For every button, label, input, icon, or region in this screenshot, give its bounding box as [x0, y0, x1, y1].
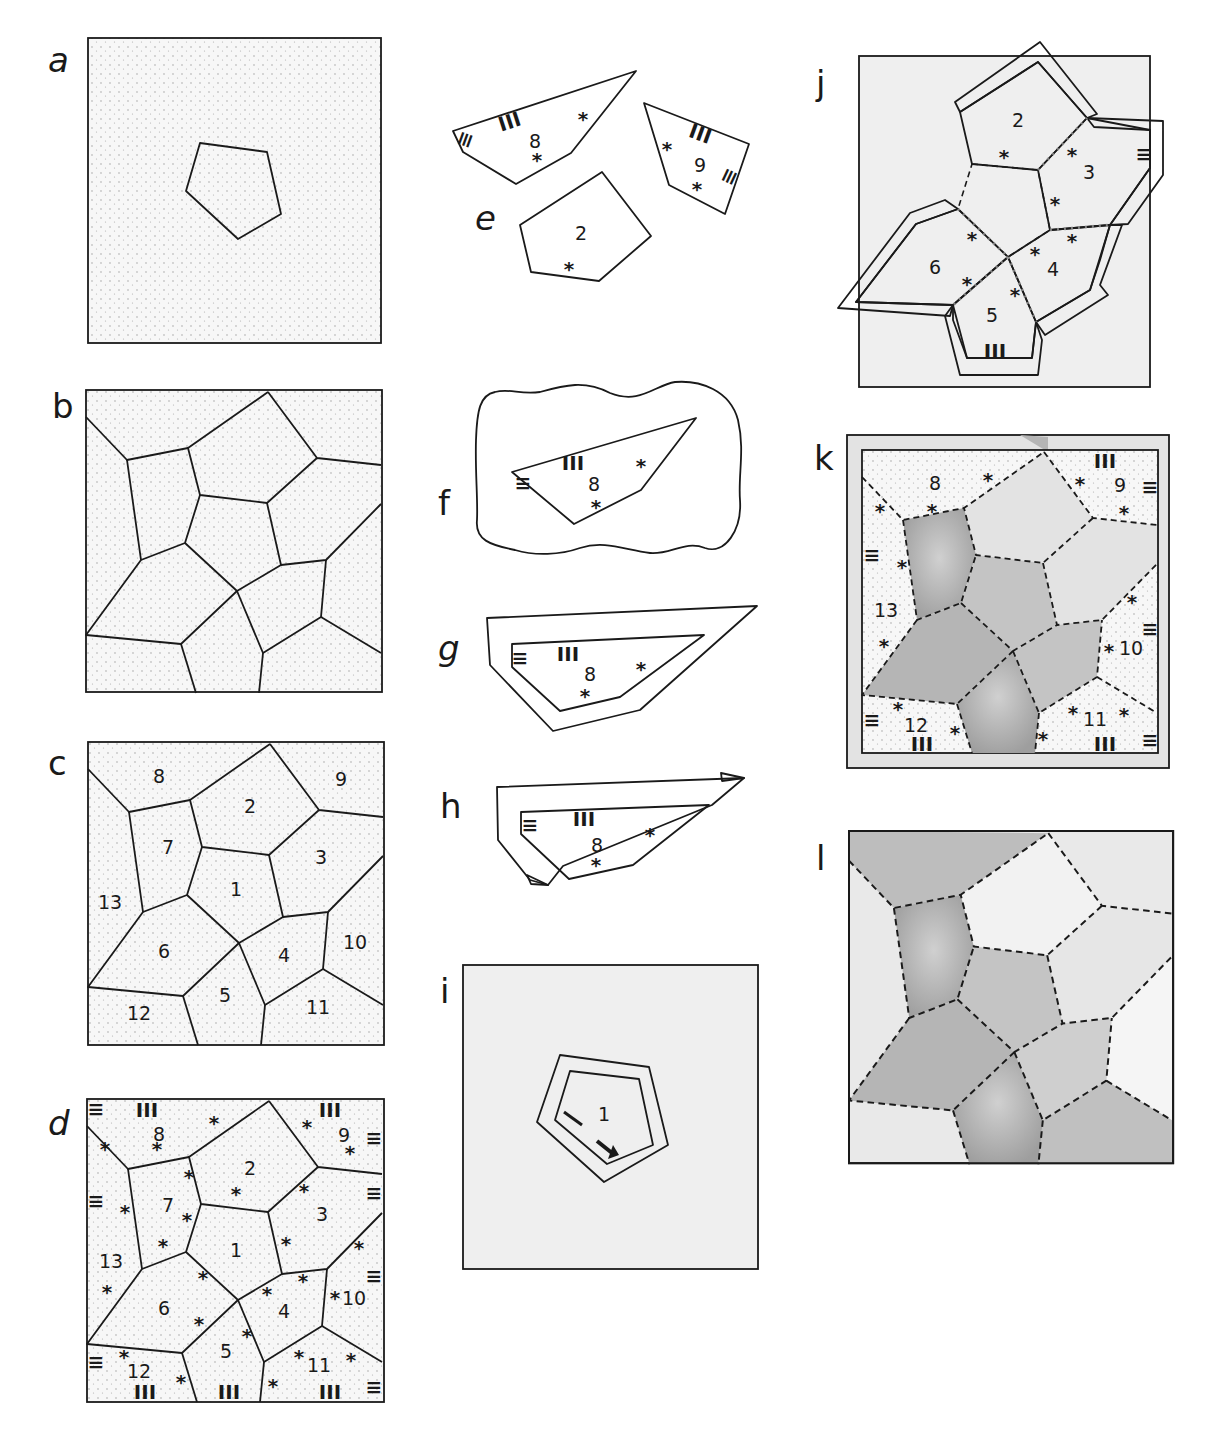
stripe-marker: ≡	[1136, 142, 1153, 166]
star-marker: *	[1010, 283, 1021, 307]
panel-label-c: c	[48, 743, 67, 783]
panel-i-frame	[463, 965, 758, 1269]
piece-number-5: 5	[219, 984, 231, 1006]
piece-number-12: 12	[127, 1002, 151, 1024]
star-marker: *	[198, 1266, 209, 1290]
star-marker: *	[1050, 192, 1061, 216]
piece-9-cutout: 9 * * III ≡	[644, 103, 749, 214]
star-marker: *	[346, 1348, 357, 1372]
star-marker: *	[345, 1141, 356, 1165]
piece-8	[521, 805, 709, 879]
panel-label-b: b	[52, 386, 74, 426]
piece-number-9: 9	[1114, 474, 1126, 496]
star-marker: *	[281, 1232, 292, 1256]
star-marker: *	[962, 272, 973, 296]
stripe-marker: III	[134, 1380, 156, 1404]
panel-b: b	[52, 386, 382, 693]
star-marker: *	[927, 499, 938, 523]
star-marker: *	[209, 1111, 220, 1135]
star-marker: *	[302, 1115, 313, 1139]
stripe-marker: ≡	[1142, 475, 1159, 499]
stripe-marker: ≡	[88, 1097, 105, 1121]
star-marker: *	[330, 1286, 341, 1310]
piece-number-11: 11	[307, 1354, 331, 1376]
piece-number-6: 6	[929, 256, 941, 278]
star-marker: *	[1067, 229, 1078, 253]
stripe-marker: III	[319, 1098, 341, 1122]
star-marker: *	[262, 1282, 273, 1306]
star-marker: *	[591, 853, 602, 877]
panel-a-frame	[88, 38, 381, 343]
star-marker: *	[119, 1345, 130, 1369]
stripe-marker: III	[562, 451, 584, 475]
panel-label-g: g	[438, 628, 460, 668]
stripe-marker: ≡	[366, 1181, 383, 1205]
panel-label-f: f	[438, 483, 451, 523]
panel-label-k: k	[814, 438, 834, 478]
stripe-marker: ≡	[864, 543, 881, 567]
star-marker: *	[354, 1236, 365, 1260]
stripe-marker: ≡	[366, 1375, 383, 1399]
stripe-marker: III	[218, 1380, 240, 1404]
stripe-marker: ≡	[1142, 728, 1159, 752]
star-marker: *	[950, 721, 961, 745]
star-marker: *	[893, 697, 904, 721]
piece-number-3: 3	[1083, 161, 1095, 183]
piece-number-4: 4	[1047, 258, 1059, 280]
piece-number-1: 1	[598, 1103, 610, 1125]
panel-label-l: l	[816, 838, 825, 878]
piece-number-2: 2	[244, 795, 256, 817]
piece-number-10: 10	[342, 1287, 366, 1309]
stripe-marker: ≡	[864, 708, 881, 732]
star-marker: *	[1038, 727, 1049, 751]
star-marker: *	[1068, 701, 1079, 725]
piece-number-11: 11	[1083, 708, 1107, 730]
piece-number-8: 8	[588, 473, 600, 495]
piece-number-4: 4	[278, 1300, 290, 1322]
panel-d: d 8 2 9 7 3 1 13 10 6 4 5 12 11 * * * * …	[48, 1097, 384, 1404]
stripe-marker: III	[1094, 732, 1116, 756]
star-marker: *	[298, 1269, 309, 1293]
star-marker: *	[636, 657, 647, 681]
piece-number-8: 8	[153, 765, 165, 787]
piece-8-on-blob	[512, 418, 696, 524]
stripe-marker: ≡	[512, 646, 529, 670]
piece-number-2: 2	[244, 1157, 256, 1179]
panel-label-a: a	[48, 40, 69, 80]
stripe-marker: III	[984, 339, 1006, 363]
piece-number-2: 2	[1012, 109, 1024, 131]
piece-2-cutout: 2 *	[520, 172, 651, 281]
star-marker: *	[897, 555, 908, 579]
stripe-marker: III	[911, 732, 933, 756]
star-marker: *	[120, 1200, 131, 1224]
star-marker: *	[532, 148, 543, 172]
star-marker: *	[564, 257, 575, 281]
star-marker: *	[102, 1280, 113, 1304]
piece-number-7: 7	[162, 1194, 174, 1216]
star-marker: *	[100, 1137, 111, 1161]
figure-canvas: a b c 8 2 9 7 3 1 13 10 6 4 5 12 11	[0, 0, 1217, 1441]
star-marker: *	[176, 1370, 187, 1394]
star-marker: *	[299, 1179, 310, 1203]
background-blob	[476, 382, 741, 554]
panel-label-e: e	[475, 198, 496, 238]
stripe-marker: ≡	[515, 471, 532, 495]
piece-number-4: 4	[278, 944, 290, 966]
stripe-marker: III	[686, 118, 715, 148]
fold-tip	[527, 875, 548, 885]
star-marker: *	[591, 495, 602, 519]
star-marker: *	[662, 137, 673, 161]
piece-number-9: 9	[694, 154, 706, 176]
panel-g: g 8 * * III ≡	[438, 606, 757, 731]
piece-number-5: 5	[220, 1340, 232, 1362]
star-marker: *	[580, 684, 591, 708]
piece-number-5: 5	[986, 304, 998, 326]
piece-number-3: 3	[315, 846, 327, 868]
star-marker: *	[242, 1324, 253, 1348]
stripe-marker: ≡	[1142, 617, 1159, 641]
piece-number-1: 1	[230, 1239, 242, 1261]
piece-number-13: 13	[98, 891, 122, 913]
panel-label-j: j	[815, 63, 825, 103]
panel-k: k 8 9 13 10 12 11 * * * * *	[814, 435, 1169, 768]
star-marker: *	[983, 468, 994, 492]
